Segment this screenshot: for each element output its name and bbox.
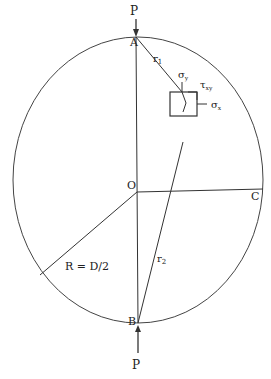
disk-compression-diagram: P P A B C O r1 r2 σy τxy σx R = D/2 — [0, 0, 271, 379]
r-kink — [182, 92, 186, 112]
center-o-label: O — [127, 179, 136, 192]
line-r2 — [138, 142, 183, 323]
diameter-ab — [136, 37, 138, 323]
point-a-label: A — [129, 36, 139, 49]
sigma-y-label: σy — [178, 69, 189, 82]
load-label-bottom: P — [132, 358, 140, 372]
radius-label: R = D/2 — [65, 260, 109, 273]
point-b-label: B — [128, 315, 136, 328]
tau-xy-label: τxy — [200, 79, 213, 92]
sigma-x-label: σx — [211, 99, 222, 111]
radius-oc — [137, 189, 263, 192]
load-label-top: P — [130, 4, 138, 18]
r2-label: r2 — [157, 253, 166, 266]
r1-label: r1 — [153, 53, 162, 66]
point-c-label: C — [251, 190, 259, 203]
